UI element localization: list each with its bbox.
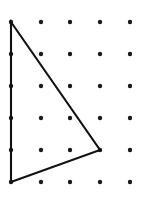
grid-dot	[68, 180, 72, 184]
grid-dot	[39, 20, 43, 24]
grid-dot	[128, 116, 132, 120]
grid-dot	[128, 52, 132, 56]
grid-dot	[128, 148, 132, 152]
grid-dot	[128, 20, 132, 24]
geoboard-canvas	[0, 0, 152, 198]
grid-dot	[39, 52, 43, 56]
grid-dot	[68, 20, 72, 24]
grid-dot	[39, 148, 43, 152]
grid-dot	[128, 180, 132, 184]
grid-dot	[98, 84, 102, 88]
grid-dot	[39, 116, 43, 120]
grid-dot	[98, 20, 102, 24]
grid-dot	[68, 52, 72, 56]
grid-dot	[39, 84, 43, 88]
grid-dot	[68, 84, 72, 88]
grid-dot	[98, 180, 102, 184]
grid-dot	[98, 52, 102, 56]
grid-dot	[68, 148, 72, 152]
geoboard-figure	[0, 0, 152, 198]
figure-background	[0, 0, 152, 198]
grid-dot	[98, 116, 102, 120]
grid-dot	[68, 116, 72, 120]
grid-dot	[39, 180, 43, 184]
grid-dot	[128, 84, 132, 88]
